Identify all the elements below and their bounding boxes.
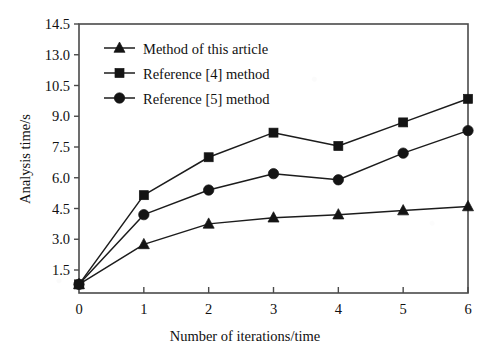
y-tick-label: 14.5: [45, 16, 70, 32]
data-point-square: [204, 153, 213, 162]
y-tick-label: 9.0: [52, 108, 70, 124]
data-point-circle: [203, 185, 213, 195]
data-point-square: [464, 94, 473, 103]
x-tick-label: 6: [464, 301, 471, 317]
y-tick-label: 7.5: [52, 139, 70, 155]
y-tick-label: 3.0: [52, 231, 70, 247]
y-tick-label: 4.5: [52, 201, 70, 217]
data-point-circle: [463, 125, 473, 135]
y-axis-title: Analysis time/s: [17, 114, 33, 204]
x-axis-title: Number of iterations/time: [170, 328, 321, 344]
data-point-square: [269, 128, 278, 137]
data-point-circle: [333, 175, 343, 185]
y-tick-label: 6.0: [52, 170, 70, 186]
x-tick-label: 2: [205, 301, 212, 317]
data-point-circle: [114, 93, 124, 103]
data-point-square: [399, 118, 408, 127]
legend-label: Reference [5] method: [143, 91, 270, 107]
line-chart: 1.53.04.56.07.59.010.513.014.5 0123456 N…: [0, 0, 491, 360]
legend-label: Method of this article: [143, 41, 268, 57]
data-point-square: [139, 191, 148, 200]
x-tick-label: 3: [270, 301, 277, 317]
figure-container: 1.53.04.56.07.59.010.513.014.5 0123456 N…: [0, 0, 491, 360]
y-tick-label: 10.5: [45, 78, 70, 94]
data-point-square: [334, 141, 343, 150]
y-tick-label: 13.0: [45, 47, 70, 63]
legend-label: Reference [4] method: [143, 66, 270, 82]
y-tick-label: 1.5: [52, 262, 70, 278]
x-tick-label: 0: [75, 301, 82, 317]
data-point-circle: [398, 148, 408, 158]
data-point-circle: [74, 279, 84, 289]
data-point-circle: [268, 168, 278, 178]
data-point-circle: [139, 209, 149, 219]
x-tick-label: 1: [140, 301, 147, 317]
data-point-square: [115, 69, 124, 78]
x-tick-label: 5: [400, 301, 407, 317]
x-tick-label: 4: [335, 301, 343, 317]
